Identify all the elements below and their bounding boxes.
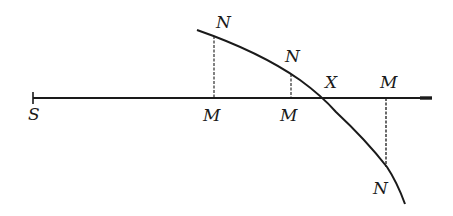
label-n1: N — [215, 12, 232, 32]
label-x: X — [323, 72, 338, 92]
label-n2: N — [284, 46, 301, 66]
label-m3: M — [379, 72, 398, 92]
label-m1: M — [202, 105, 221, 125]
label-m2: M — [279, 105, 298, 125]
label-s: S — [28, 104, 40, 124]
label-n3: N — [372, 178, 389, 198]
geometry-diagram: S N M N M X M N — [0, 0, 453, 216]
